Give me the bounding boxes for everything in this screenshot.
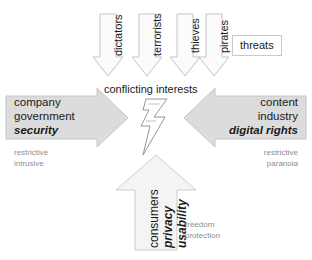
- left-actor-line1: company: [14, 96, 61, 110]
- threat-label-thieves: thieves: [189, 18, 201, 53]
- conflicting-interests-title: conflicting interests: [104, 83, 198, 96]
- threat-label-pirates: pirates: [218, 20, 230, 53]
- bottom-actor-line2: privacy: [161, 206, 175, 248]
- left-actor-sub2: intrusive: [14, 159, 44, 170]
- right-actor-line2: industry: [258, 110, 298, 124]
- bottom-actor-line1: consumers: [147, 189, 161, 248]
- threat-label-terrorists: terrorists: [151, 13, 163, 56]
- bottom-actor-sub1: freedom: [185, 220, 214, 231]
- right-actor-line1: content: [260, 96, 298, 110]
- threats-group-label: threats: [232, 35, 282, 56]
- left-actor-line2: government: [14, 110, 75, 124]
- right-actor-line3: digital rights: [229, 124, 298, 138]
- diagram-labels: dictators terrorists thieves pirates thr…: [0, 0, 312, 260]
- right-actor-sub2: paranoia: [267, 159, 298, 170]
- left-actor-sub1: restrictive: [14, 148, 48, 159]
- conflicting-interests-diagram: dictators terrorists thieves pirates thr…: [0, 0, 312, 260]
- bottom-actor-sub2: protection: [185, 231, 220, 242]
- left-actor-line3: security: [14, 124, 58, 138]
- right-actor-sub1: restrictive: [264, 148, 298, 159]
- threat-label-dictators: dictators: [112, 14, 124, 56]
